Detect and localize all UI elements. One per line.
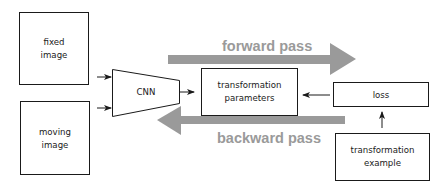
params-label-line2: parameters — [225, 93, 275, 103]
cnn-node: CNN — [113, 70, 180, 117]
registration-diagram: forward pass backward pass fixed image m… — [0, 0, 443, 191]
moving-image-label-line2: image — [42, 140, 69, 150]
transformation-example-node: transformation example — [336, 134, 430, 181]
loss-node: loss — [334, 83, 429, 107]
forward-pass-label: forward pass — [222, 38, 312, 54]
fixed-image-label-line1: fixed — [44, 37, 65, 47]
moving-image-node: moving image — [21, 102, 90, 175]
example-label-line2: example — [364, 158, 401, 168]
loss-label: loss — [373, 90, 390, 100]
fixed-image-node: fixed image — [20, 13, 89, 85]
params-label-line1: transformation — [218, 80, 282, 90]
example-label-line1: transformation — [351, 145, 415, 155]
fixed-image-label-line2: image — [41, 50, 68, 60]
backward-pass-label: backward pass — [217, 130, 321, 146]
moving-image-label-line1: moving — [39, 127, 71, 137]
cnn-label: CNN — [137, 87, 156, 97]
transformation-parameters-node: transformation parameters — [202, 69, 298, 116]
